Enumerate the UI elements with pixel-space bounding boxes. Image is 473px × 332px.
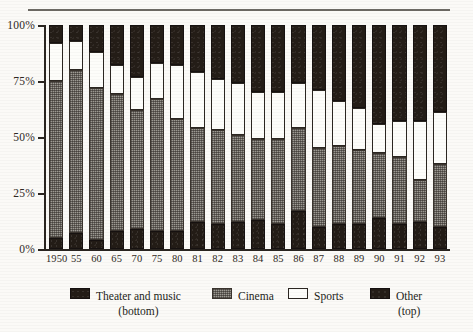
bar-segment-sports (352, 108, 366, 151)
bar-segment-theater (89, 240, 103, 249)
bar-65[interactable] (110, 25, 124, 249)
bar-90[interactable] (372, 25, 386, 249)
bar-86[interactable] (291, 25, 305, 249)
bar-82[interactable] (211, 25, 225, 249)
bar-segment-cinema (291, 128, 305, 211)
bar-55[interactable] (69, 25, 83, 249)
legend-item-cinema[interactable]: Cinema (212, 286, 274, 304)
x-axis-label: 85 (268, 253, 288, 264)
legend-text-group: Cinema (238, 286, 274, 304)
legend-item-theater-and-music[interactable]: Theater and music(bottom) (70, 286, 181, 318)
y-tick-label: 100% (7, 19, 35, 31)
cinema-swatch-icon (212, 288, 232, 299)
bar-segment-theater (211, 224, 225, 249)
bar-segment-cinema (211, 130, 225, 224)
bar-70[interactable] (130, 25, 144, 249)
x-axis-label: 86 (288, 253, 308, 264)
bar-segment-sports (332, 101, 346, 146)
bar-segment-other (49, 25, 63, 43)
bar-75[interactable] (150, 25, 164, 249)
bar-93[interactable] (433, 25, 447, 249)
x-axis-label: 65 (107, 253, 127, 264)
bar-segment-theater (69, 233, 83, 249)
bar-84[interactable] (251, 25, 265, 249)
x-axis-label: 93 (430, 253, 450, 264)
bar-segment-theater (49, 238, 63, 249)
bar-segment-sports (271, 92, 285, 139)
bar-80[interactable] (170, 25, 184, 249)
bar-group (46, 25, 450, 249)
bar-segment-theater (352, 224, 366, 249)
bar-segment-theater (392, 224, 406, 249)
x-axis-label: 82 (208, 253, 228, 264)
x-axis-label: 83 (228, 253, 248, 264)
bar-segment-theater (433, 227, 447, 249)
bar-segment-other (413, 25, 427, 121)
plot-area: 100%75%50%25%0% 195055606570758081828384… (44, 25, 450, 250)
bar-85[interactable] (271, 25, 285, 249)
x-axis-label: 90 (369, 253, 389, 264)
y-tick (38, 249, 44, 251)
bar-83[interactable] (231, 25, 245, 249)
bar-segment-theater (372, 218, 386, 249)
x-axis-line (44, 249, 450, 251)
bar-segment-cinema (312, 148, 326, 226)
bar-91[interactable] (392, 25, 406, 249)
bar-segment-theater (251, 220, 265, 249)
y-tick (38, 137, 44, 139)
bar-segment-theater (332, 224, 346, 249)
bar-segment-other (291, 25, 305, 83)
bar-segment-sports (150, 63, 164, 99)
bar-60[interactable] (89, 25, 103, 249)
bar-segment-cinema (251, 139, 265, 220)
bar-segment-theater (190, 222, 204, 249)
legend-label: Theater and music (96, 290, 181, 302)
y-tick-label: 50% (13, 131, 35, 143)
bar-segment-sports (312, 90, 326, 148)
bar-88[interactable] (332, 25, 346, 249)
bar-segment-cinema (150, 99, 164, 231)
x-axis-label: 87 (309, 253, 329, 264)
bar-segment-sports (372, 124, 386, 153)
x-axis-label: 75 (147, 253, 167, 264)
bar-segment-other (130, 25, 144, 77)
y-tick-label: 0% (19, 243, 35, 255)
legend-sublabel: (bottom) (96, 304, 181, 318)
bar-segment-other (211, 25, 225, 79)
legend-item-other[interactable]: Other(top) (370, 286, 422, 318)
bar-92[interactable] (413, 25, 427, 249)
bar-1950[interactable] (49, 25, 63, 249)
bar-segment-sports (170, 65, 184, 119)
bar-segment-other (231, 25, 245, 83)
bar-segment-other (372, 25, 386, 124)
bar-segment-other (251, 25, 265, 92)
bar-segment-sports (413, 121, 427, 179)
y-tick (38, 81, 44, 83)
bar-segment-other (89, 25, 103, 52)
y-tick-label: 25% (13, 187, 35, 199)
legend-label: Cinema (238, 290, 274, 302)
bar-segment-sports (110, 65, 124, 94)
other-swatch-icon (370, 288, 390, 299)
x-axis-label: 55 (66, 253, 86, 264)
legend-label: Other (396, 290, 422, 302)
bar-segment-sports (231, 83, 245, 135)
sports-swatch-icon (288, 288, 308, 299)
bar-segment-other (352, 25, 366, 108)
x-axis-label: 91 (389, 253, 409, 264)
bar-segment-other (271, 25, 285, 92)
bar-segment-cinema (372, 153, 386, 218)
bar-segment-sports (392, 121, 406, 157)
y-tick-label: 75% (13, 75, 35, 87)
x-axis-label: 88 (329, 253, 349, 264)
legend-sublabel: (top) (396, 304, 422, 318)
bar-89[interactable] (352, 25, 366, 249)
y-tick (38, 193, 44, 195)
top-divider-rule (28, 9, 450, 11)
bar-segment-other (312, 25, 326, 90)
legend-item-sports[interactable]: Sports (288, 286, 343, 304)
y-tick (38, 25, 44, 27)
legend-text-group: Sports (314, 286, 343, 304)
bar-81[interactable] (190, 25, 204, 249)
bar-87[interactable] (312, 25, 326, 249)
